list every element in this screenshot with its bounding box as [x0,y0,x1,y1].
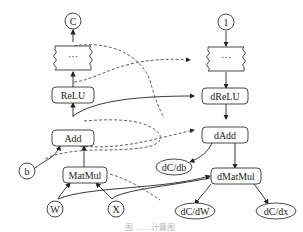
figure-caption: 图 ……计算图 [125,222,176,232]
node-dc-dx[interactable]: dC/dx [256,203,296,219]
svg-text:···: ··· [221,52,231,63]
node-dadd[interactable]: dAdd [202,127,248,143]
node-weight-w[interactable]: W [47,201,63,217]
node-input-x[interactable]: X [108,201,124,217]
node-drelu[interactable]: dReLU [202,88,248,104]
svg-text:dC/dW: dC/dW [181,206,210,217]
svg-text:C: C [70,16,77,27]
svg-text:dC/db: dC/db [162,162,186,173]
node-relu[interactable]: ReLU [52,87,94,103]
node-dc-dw[interactable]: dC/dW [175,203,215,219]
computation-graph: C ··· ReLU Add b MatMul W X 1 ··· dReLU [0,0,303,232]
node-output-c[interactable]: C [65,13,81,29]
svg-text:1: 1 [224,17,229,28]
svg-text:W: W [50,204,60,215]
node-matmul[interactable]: MatMul [63,167,107,183]
svg-text:dMatMul: dMatMul [217,171,255,182]
node-seed-one[interactable]: 1 [218,14,234,30]
node-bias-b[interactable]: b [19,163,35,179]
svg-text:ReLU: ReLU [61,90,86,101]
node-dmatmul[interactable]: dMatMul [211,168,261,184]
svg-text:MatMul: MatMul [69,170,102,181]
node-forward-ellipsis[interactable]: ··· [54,46,93,70]
svg-text:dAdd: dAdd [214,130,236,141]
node-dc-db[interactable]: dC/db [156,159,192,175]
svg-text:dC/dx: dC/dx [264,206,288,217]
svg-text:X: X [112,204,120,215]
svg-text:dReLU: dReLU [210,91,240,102]
svg-text:b: b [25,166,30,177]
node-backward-ellipsis[interactable]: ··· [207,47,246,71]
svg-text:Add: Add [64,133,81,144]
svg-text:···: ··· [68,51,78,62]
node-add[interactable]: Add [52,130,94,146]
